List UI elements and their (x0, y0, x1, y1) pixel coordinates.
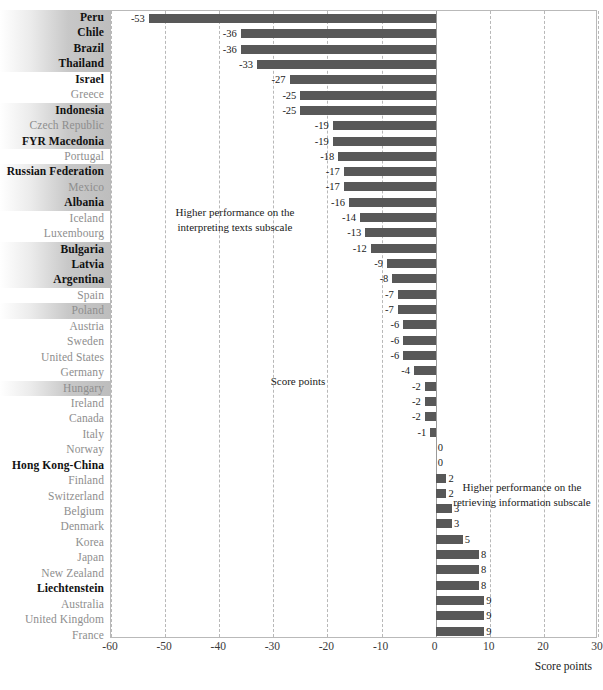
bar-row: -18 (111, 149, 596, 164)
bar-value-label: -33 (111, 57, 255, 72)
bar (398, 305, 436, 314)
bar-value-label: -6 (111, 317, 401, 332)
bar-value-label: 9 (486, 593, 491, 608)
bar (436, 611, 485, 620)
axis-tick-label: -30 (265, 640, 280, 652)
axis-tick-label: 20 (537, 640, 549, 652)
bar-row: -27 (111, 72, 596, 87)
bar (436, 565, 479, 574)
country-label: Peru (0, 10, 110, 25)
country-label: Switzerland (0, 489, 110, 504)
bar-value-label: -9 (111, 256, 385, 271)
bar (241, 29, 436, 38)
bar (300, 91, 435, 100)
bar-row: -2 (111, 394, 596, 409)
bar (436, 550, 479, 559)
bar-value-label: -53 (111, 11, 147, 26)
bar-value-label: -2 (111, 409, 423, 424)
bar (333, 137, 436, 146)
bar-row: 0 (111, 440, 596, 455)
country-label: Russian Federation (0, 164, 110, 179)
bar-row: -53 (111, 11, 596, 26)
country-label: United Kingdom (0, 612, 110, 627)
bar-row: 9 (111, 593, 596, 608)
country-label: Hungary (0, 381, 110, 396)
bar-value-label: -12 (111, 241, 369, 256)
bar (436, 504, 452, 513)
bar (436, 489, 447, 498)
country-label: Albania (0, 195, 110, 210)
bar-value-label: 5 (465, 532, 470, 547)
country-label: Belgium (0, 504, 110, 519)
bar-row: 3 (111, 516, 596, 531)
country-label: FYR Macedonia (0, 134, 110, 149)
bar (403, 351, 435, 360)
bar-row: -6 (111, 333, 596, 348)
axis-tick-label: 10 (483, 640, 495, 652)
axis-tick-label: -10 (373, 640, 388, 652)
bar-value-label: -17 (111, 179, 342, 194)
bar (338, 152, 435, 161)
bar-row: 8 (111, 578, 596, 593)
bar (403, 320, 435, 329)
bar-value-label: 8 (481, 547, 486, 562)
bar-row: 5 (111, 532, 596, 547)
bar (425, 412, 436, 421)
bar-value-label: 3 (454, 516, 459, 531)
country-label: Hong Kong-China (0, 458, 110, 473)
bar-row: -33 (111, 57, 596, 72)
country-label: Korea (0, 535, 110, 550)
bar-value-label: -36 (111, 42, 239, 57)
country-label: Finland (0, 473, 110, 488)
country-label: Australia (0, 597, 110, 612)
bar-value-label: 9 (486, 608, 491, 623)
bar (414, 366, 436, 375)
country-label: Sweden (0, 334, 110, 349)
bar-value-label: -36 (111, 26, 239, 41)
country-label: Germany (0, 365, 110, 380)
bar-value-label: -19 (111, 118, 331, 133)
bar (257, 60, 436, 69)
bar-value-label: 8 (481, 578, 486, 593)
bar-value-label: -6 (111, 348, 401, 363)
bar (398, 290, 436, 299)
bar-row: -7 (111, 302, 596, 317)
country-label: Ireland (0, 396, 110, 411)
bar-row: -6 (111, 348, 596, 363)
bar (425, 397, 436, 406)
x-axis-title: Score points (535, 660, 592, 672)
bar-row: -19 (111, 134, 596, 149)
country-label: United States (0, 350, 110, 365)
axis-tick-label: 0 (432, 640, 438, 652)
axis-tick-label: -60 (102, 640, 117, 652)
annotation-score-points: Score points (243, 374, 353, 389)
country-label: Israel (0, 72, 110, 87)
country-label: Norway (0, 442, 110, 457)
country-label: Chile (0, 25, 110, 40)
country-label: Indonesia (0, 103, 110, 118)
bar-row: -8 (111, 271, 596, 286)
bar-row: -25 (111, 88, 596, 103)
annotation-interpreting-texts: Higher performance on the interpreting t… (165, 205, 305, 234)
country-label: Austria (0, 319, 110, 334)
bar-value-label: -6 (111, 333, 401, 348)
bar (300, 106, 435, 115)
country-label: Italy (0, 427, 110, 442)
country-label: Mexico (0, 180, 110, 195)
bar-row: 0 (111, 455, 596, 470)
bar (387, 259, 436, 268)
bar (436, 596, 485, 605)
bar (333, 121, 436, 130)
bar (403, 336, 435, 345)
bar (149, 14, 436, 23)
bar-row: 9 (111, 624, 596, 639)
country-label: Japan (0, 550, 110, 565)
bar-value-label: 9 (486, 624, 491, 639)
country-label: France (0, 628, 110, 643)
bar (349, 198, 436, 207)
bar (365, 228, 435, 237)
country-label: Spain (0, 288, 110, 303)
bar-row: -17 (111, 164, 596, 179)
bar-value-label: -25 (111, 88, 298, 103)
